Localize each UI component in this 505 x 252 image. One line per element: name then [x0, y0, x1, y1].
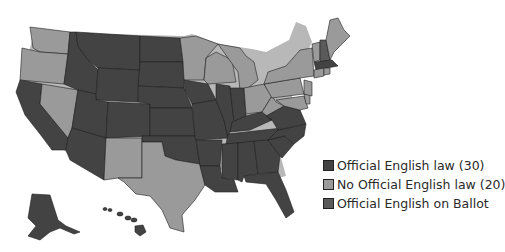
legend-item-ballot: Official English on Ballot — [323, 194, 505, 213]
state-ak — [28, 194, 80, 240]
state-vt — [312, 42, 320, 62]
state-nm — [104, 138, 142, 180]
legend-label-official: Official English law (30) — [337, 158, 484, 173]
state-ks — [150, 108, 195, 136]
state-hi — [103, 208, 146, 237]
state-nj — [304, 80, 312, 96]
state-ri — [324, 68, 330, 75]
state-wy — [96, 68, 140, 102]
legend-label-ballot: Official English on Ballot — [337, 196, 489, 211]
state-nd — [140, 36, 183, 62]
state-ar — [196, 140, 222, 166]
legend: Official English law (30) No Official En… — [323, 156, 505, 213]
legend-item-official: Official English law (30) — [323, 156, 505, 175]
state-sd — [138, 62, 184, 88]
state-or — [20, 48, 68, 84]
legend-item-no-official: No Official English law (20) — [323, 175, 505, 194]
legend-swatch-official — [323, 160, 334, 171]
state-fl — [244, 172, 294, 218]
state-ms — [222, 143, 238, 180]
state-wa — [30, 27, 70, 54]
state-me — [326, 18, 350, 60]
state-ct — [314, 68, 324, 78]
legend-swatch-no-official — [323, 179, 334, 190]
state-co — [106, 102, 150, 138]
legend-label-no-official: No Official English law (20) — [337, 177, 505, 192]
legend-swatch-ballot — [323, 198, 334, 209]
